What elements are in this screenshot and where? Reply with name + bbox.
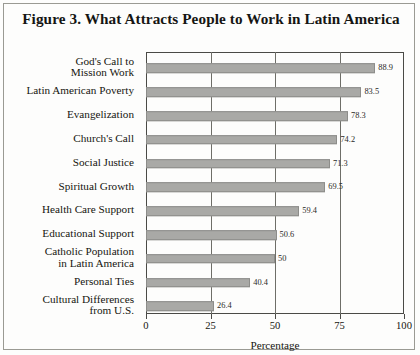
- bar-row: 59.4: [146, 199, 404, 223]
- category-label: Social Justice: [0, 157, 134, 169]
- bar-row: 50.6: [146, 223, 404, 247]
- bar-row: 71.3: [146, 152, 404, 176]
- bar: [146, 183, 325, 193]
- bar-value-label: 83.5: [361, 88, 379, 97]
- category-label: Evangelization: [0, 109, 134, 121]
- figure-title: Figure 3. What Attracts People to Work i…: [14, 10, 408, 28]
- x-tick: [146, 314, 147, 319]
- bar-value-label: 40.4: [250, 278, 268, 287]
- bar-value-label: 69.5: [325, 183, 343, 192]
- bar-row: 78.3: [146, 104, 404, 128]
- bar-row: 40.4: [146, 271, 404, 295]
- category-label: Educational Support: [0, 228, 134, 240]
- chart-plot-wrapper: 88.983.578.374.271.369.559.450.65040.426…: [146, 52, 404, 314]
- bar-row: 83.5: [146, 80, 404, 104]
- bar: [146, 87, 361, 97]
- bar: [146, 278, 250, 288]
- bar-value-label: 50.6: [277, 230, 295, 239]
- bar-value-label: 88.9: [375, 64, 393, 73]
- bar: [146, 206, 299, 216]
- bar-value-label: 59.4: [299, 207, 317, 216]
- bar: [146, 64, 375, 74]
- bar-value-label: 26.4: [214, 302, 232, 311]
- bar-row: 50: [146, 247, 404, 271]
- bar-value-label: 78.3: [348, 111, 366, 120]
- category-label: Latin American Poverty: [0, 85, 134, 97]
- bar: [146, 230, 277, 240]
- bar-row: 88.9: [146, 57, 404, 81]
- bar: [146, 111, 348, 121]
- x-tick: [404, 314, 405, 319]
- bar-row: 74.2: [146, 128, 404, 152]
- x-tick-label: 75: [334, 320, 345, 331]
- bar-value-label: 74.2: [337, 135, 355, 144]
- bar: [146, 302, 214, 312]
- category-label: Catholic Population in Latin America: [0, 246, 134, 269]
- x-tick-label: 0: [143, 320, 148, 331]
- category-label: Church's Call: [0, 133, 134, 145]
- category-label: Cultural Differences from U.S.: [0, 294, 134, 317]
- bar: [146, 254, 275, 264]
- x-tick: [211, 314, 212, 319]
- x-tick-label: 50: [270, 320, 281, 331]
- bar-value-label: 50: [275, 254, 286, 263]
- category-label: Health Care Support: [0, 204, 134, 216]
- x-tick: [340, 314, 341, 319]
- category-label: Personal Ties: [0, 276, 134, 288]
- x-axis-title: Percentage: [146, 339, 404, 351]
- bar-value-label: 71.3: [330, 159, 348, 168]
- bar-row: 69.5: [146, 176, 404, 200]
- x-tick-label: 25: [205, 320, 216, 331]
- category-label: Spiritual Growth: [0, 181, 134, 193]
- figure-frame: Figure 3. What Attracts People to Work i…: [3, 3, 415, 350]
- bar: [146, 159, 330, 169]
- x-tick-label: 100: [396, 320, 412, 331]
- bar: [146, 135, 337, 145]
- category-label: God's Call to Mission Work: [0, 56, 134, 79]
- x-tick: [275, 314, 276, 319]
